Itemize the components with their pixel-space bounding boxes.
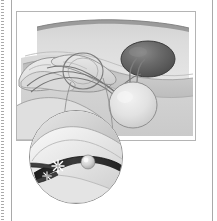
magnified-inset [29, 110, 123, 204]
dark-organ [121, 41, 175, 77]
right-margin-rule [212, 0, 213, 221]
page-root [0, 0, 217, 221]
perforation-edge [1, 0, 4, 221]
left-margin-rule [11, 0, 12, 221]
nodule [81, 155, 95, 169]
inset-illustration [30, 111, 122, 203]
